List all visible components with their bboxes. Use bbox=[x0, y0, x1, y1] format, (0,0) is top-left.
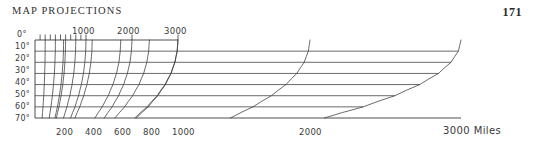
latitude-label-40: 40° bbox=[15, 78, 30, 87]
bottom-axis-tick-label-400: 400 bbox=[85, 127, 102, 137]
top-axis-tick-label-1000: 1000 bbox=[72, 26, 95, 36]
latitude-label-10: 10° bbox=[15, 42, 30, 51]
bottom-axis-tick-label-200: 200 bbox=[56, 127, 73, 137]
latitude-label-0: 0° bbox=[17, 30, 27, 39]
top-axis-tick-label-3000: 3000 bbox=[164, 26, 187, 36]
latitude-label-70: 70° bbox=[15, 114, 30, 123]
distance-curve-bottom-scale bbox=[75, 40, 92, 118]
distance-curve-bottom-scale bbox=[95, 40, 121, 118]
distance-curve-top-scale bbox=[104, 40, 132, 118]
distance-curve-top-scale bbox=[136, 40, 178, 118]
distance-curve-top-scale bbox=[42, 40, 45, 118]
bottom-axis-tick-label-800: 800 bbox=[143, 127, 160, 137]
distance-curve-bottom-scale bbox=[324, 40, 461, 118]
latitude-label-60: 60° bbox=[15, 102, 30, 111]
distance-curve-top-scale bbox=[49, 40, 55, 118]
bottom-axis-units-label: 3000 Miles bbox=[443, 125, 501, 136]
latitude-label-50: 50° bbox=[15, 90, 30, 99]
latitude-label-30: 30° bbox=[15, 66, 30, 75]
top-axis-tick-label-2000: 2000 bbox=[117, 26, 140, 36]
bottom-axis-tick-label-600: 600 bbox=[114, 127, 131, 137]
distance-curve-bottom-scale bbox=[230, 40, 310, 118]
book-page: MAP PROJECTIONS 171 1000 2000 3000 0° 10… bbox=[0, 0, 534, 148]
latitude-label-20: 20° bbox=[15, 54, 30, 63]
bottom-axis-tick-label-1000: 1000 bbox=[172, 127, 195, 137]
bottom-axis-tick-label-2000: 2000 bbox=[299, 127, 322, 137]
